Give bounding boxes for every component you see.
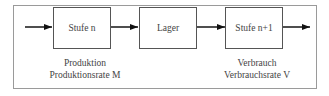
box-lager-label: Lager	[157, 23, 179, 33]
consumption-rate: Verbrauchsrate V	[212, 70, 302, 80]
box-stufe-n-label: Stufe n	[68, 23, 95, 33]
box-stufe-n: Stufe n	[53, 7, 111, 49]
production-rate: Produktionsrate M	[40, 70, 130, 80]
box-lager: Lager	[139, 7, 197, 49]
production-title: Produktion	[40, 58, 130, 68]
box-stufe-n-plus-1: Stufe n+1	[225, 7, 283, 49]
box-stufe-n-plus-1-label: Stufe n+1	[235, 23, 272, 33]
consumption-title: Verbrauch	[212, 58, 302, 68]
